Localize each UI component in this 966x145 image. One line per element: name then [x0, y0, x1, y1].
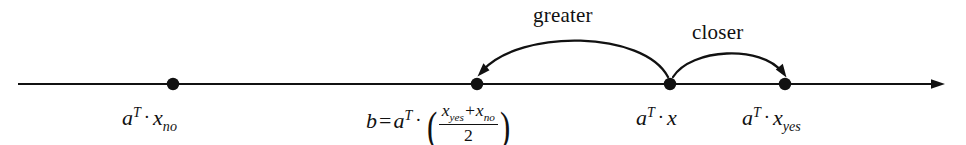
label-x-transpose: T: [647, 104, 655, 120]
label-x-no-transpose: T: [133, 104, 141, 120]
closer-arc-path: [673, 53, 782, 77]
label-b-fraction-denominator: 2: [439, 125, 498, 145]
greater-arc-path: [482, 41, 668, 77]
label-x: aT·x: [636, 105, 677, 129]
label-b-fraction: xyes+xno 2: [439, 101, 498, 145]
label-x-a: a: [636, 105, 647, 130]
label-b-num-x1: x: [442, 100, 450, 120]
label-x-yes-a: a: [742, 105, 753, 130]
label-x-no-subscript: no: [163, 118, 177, 134]
label-x-yes: aT·xyes: [742, 105, 801, 133]
label-x-no-dot: ·: [141, 106, 153, 127]
label-b: b=aT·( xyes+xno 2 ): [366, 101, 512, 145]
label-b-num-plus: +: [464, 100, 476, 120]
label-x-yes-transpose: T: [753, 104, 761, 120]
point-b: [471, 78, 483, 90]
label-x-base: x: [667, 105, 677, 130]
point-x: [664, 78, 676, 90]
label-x-yes-subscript: yes: [783, 118, 801, 134]
label-x-no-a: a: [122, 105, 133, 130]
figure-canvas: greater closer aT·xno b=aT·( xyes+xno 2 …: [0, 0, 966, 145]
label-x-no-base: x: [153, 105, 163, 130]
label-b-a: a: [393, 108, 404, 133]
label-x-yes-base: x: [773, 105, 783, 130]
label-b-num-sub1: yes: [450, 111, 464, 123]
label-x-yes-dot: ·: [761, 106, 773, 127]
number-line-right-arrowhead: [931, 79, 945, 88]
label-b-num-x2: x: [476, 100, 484, 120]
label-b-equals: =: [377, 108, 393, 133]
label-x-dot: ·: [655, 106, 667, 127]
label-b-num-sub2: no: [484, 111, 495, 123]
label-b-b: b: [366, 108, 377, 133]
point-x-no: [167, 78, 179, 90]
label-b-dot: ·: [412, 109, 424, 130]
closer-arc-label: closer: [692, 20, 743, 45]
greater-arc-label: greater: [533, 3, 593, 28]
point-x-yes: [779, 78, 791, 90]
label-b-fraction-numerator: xyes+xno: [439, 101, 498, 125]
label-x-no: aT·xno: [122, 105, 177, 133]
